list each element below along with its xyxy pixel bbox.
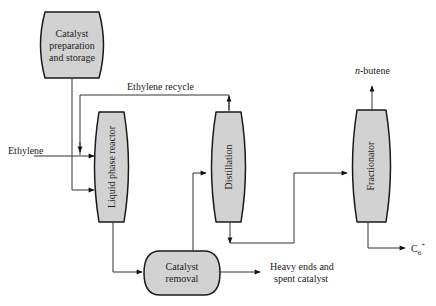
process-flow-diagram: Catalyst preparation and storage Liquid … (0, 0, 436, 306)
catalyst-removal-unit: Catalyst removal (144, 251, 220, 295)
ethylene-recycle-label: Ethylene recycle (127, 81, 194, 92)
distillation-label: Distillation (223, 145, 234, 190)
catalyst-prep-label-2: preparation (49, 40, 95, 51)
c6-plus-line (368, 222, 405, 248)
catalyst-removal-label-2: removal (166, 273, 199, 284)
n-butene-label: n-butene (355, 65, 391, 76)
distillation-column: Distillation (212, 112, 246, 222)
reactor-label: Liquid phase reactor (106, 125, 117, 208)
catalyst-preparation-unit: Catalyst preparation and storage (41, 12, 104, 78)
fractionator-column: Fractionator (353, 110, 391, 222)
catalyst-prep-label-3: and storage (49, 52, 95, 63)
reactor-to-removal-line (113, 222, 142, 272)
removal-to-distillation-line (193, 173, 206, 251)
c6-plus-label: C6+ (411, 241, 425, 257)
ethylene-feed-label: Ethylene (8, 145, 44, 156)
catalyst-removal-label-1: Catalyst (166, 261, 199, 272)
heavy-ends-label-1: Heavy ends and (270, 261, 334, 272)
fractionator-label: Fractionator (365, 141, 376, 191)
distillation-to-fractionator-line (230, 173, 347, 243)
liquid-phase-reactor: Liquid phase reactor (95, 112, 129, 222)
catalyst-prep-label-1: Catalyst (56, 28, 89, 39)
heavy-ends-label-2: spent catalyst (274, 273, 328, 284)
